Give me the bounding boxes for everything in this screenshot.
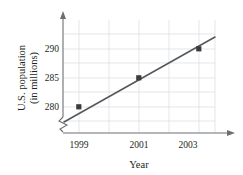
- chart-canvas: 290 285 280 1999 2001 2003 Year U.S. pop…: [0, 0, 243, 175]
- data-point-2003: [196, 46, 201, 51]
- x-tick-label-1999: 1999: [70, 140, 89, 150]
- data-point-1999: [76, 104, 81, 109]
- y-tick-label-285: 285: [45, 73, 60, 83]
- x-axis-title: Year: [129, 159, 149, 170]
- data-point-2001: [136, 75, 141, 80]
- y-axis-title: U.S. population (in millions): [16, 44, 40, 111]
- x-tick-label-2001: 2001: [130, 140, 149, 150]
- x-tick-label-2003: 2003: [179, 140, 198, 150]
- y-tick-label-280: 280: [45, 102, 60, 112]
- y-tick-label-290: 290: [45, 44, 60, 54]
- y-axis-title-line1: U.S. population: [16, 44, 27, 111]
- y-axis-title-line2: (in millions): [28, 51, 40, 104]
- population-line-chart: 290 285 280 1999 2001 2003 Year U.S. pop…: [0, 0, 243, 175]
